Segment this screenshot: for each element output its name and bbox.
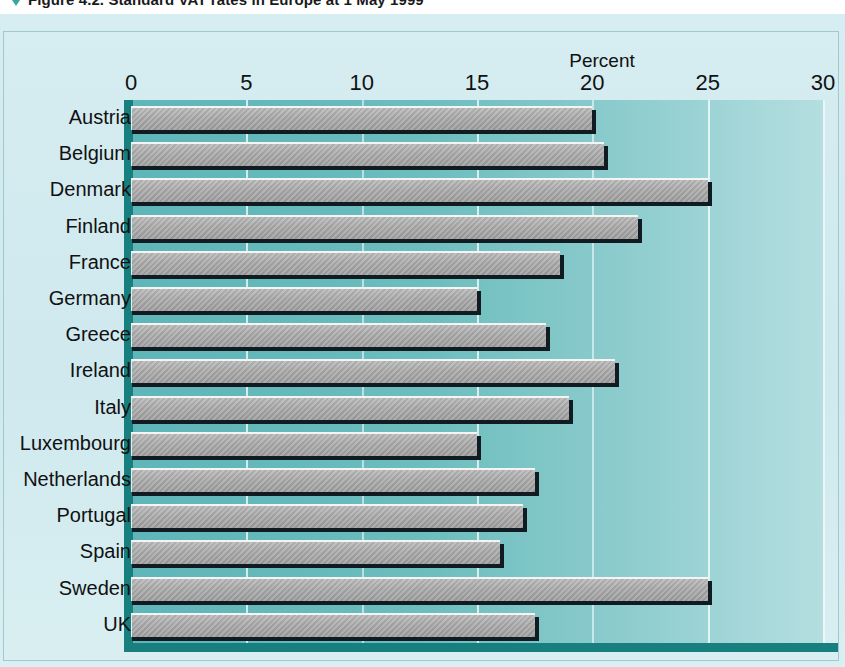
- bar-row: Ireland: [0, 353, 845, 389]
- bar-spain[interactable]: [131, 540, 500, 564]
- bar-greece[interactable]: [131, 323, 546, 347]
- category-label-finland: Finland: [0, 215, 131, 238]
- category-label-netherlands: Netherlands: [0, 468, 131, 491]
- category-label-italy: Italy: [0, 396, 131, 419]
- bar-row: Luxembourg: [0, 426, 845, 462]
- bar-fill: [131, 468, 535, 492]
- bar-row: UK: [0, 607, 845, 643]
- bar-fill: [131, 215, 638, 239]
- bar-row: France: [0, 245, 845, 281]
- bar-row: Netherlands: [0, 462, 845, 498]
- bar-ireland[interactable]: [131, 359, 615, 383]
- bar-fill: [131, 178, 708, 202]
- x-tick-30: 30: [793, 70, 845, 96]
- bar-fill: [131, 106, 592, 130]
- x-axis-title: Percent: [540, 50, 664, 72]
- figure-caption: Figure 4.2. Standard VAT rates in Europe…: [10, 0, 424, 8]
- bar-row: Sweden: [0, 571, 845, 607]
- bar-denmark[interactable]: [131, 178, 708, 202]
- bar-fill: [131, 540, 500, 564]
- bar-row: Belgium: [0, 136, 845, 172]
- bar-portugal[interactable]: [131, 504, 523, 528]
- category-label-austria: Austria: [0, 106, 131, 129]
- bar-belgium[interactable]: [131, 142, 604, 166]
- x-axis-line: [124, 643, 838, 652]
- bar-sweden[interactable]: [131, 577, 708, 601]
- bar-germany[interactable]: [131, 287, 477, 311]
- category-label-denmark: Denmark: [0, 178, 131, 201]
- bar-fill: [131, 142, 604, 166]
- bar-row: Spain: [0, 534, 845, 570]
- category-label-france: France: [0, 251, 131, 274]
- category-label-spain: Spain: [0, 540, 131, 563]
- bar-row: Portugal: [0, 498, 845, 534]
- category-label-ireland: Ireland: [0, 359, 131, 382]
- category-label-uk: UK: [0, 613, 131, 636]
- bar-italy[interactable]: [131, 396, 569, 420]
- bar-netherlands[interactable]: [131, 468, 535, 492]
- bar-fill: [131, 504, 523, 528]
- figure-caption-text: Figure 4.2. Standard VAT rates in Europe…: [28, 0, 424, 8]
- bar-fill: [131, 613, 535, 637]
- x-tick-15: 15: [447, 70, 507, 96]
- bar-fill: [131, 577, 708, 601]
- category-label-greece: Greece: [0, 323, 131, 346]
- bar-austria[interactable]: [131, 106, 592, 130]
- bar-row: Austria: [0, 100, 845, 136]
- bar-fill: [131, 396, 569, 420]
- x-tick-5: 5: [216, 70, 276, 96]
- bar-fill: [131, 359, 615, 383]
- bar-fill: [131, 432, 477, 456]
- category-label-luxembourg: Luxembourg: [0, 432, 131, 455]
- chart-panel: Percent 051015202530 AustriaBelgiumDenma…: [0, 14, 845, 667]
- x-tick-10: 10: [332, 70, 392, 96]
- bar-finland[interactable]: [131, 215, 638, 239]
- bar-fill: [131, 251, 560, 275]
- x-tick-0: 0: [101, 70, 161, 96]
- bar-fill: [131, 323, 546, 347]
- bar-row: Denmark: [0, 172, 845, 208]
- bar-row: Greece: [0, 317, 845, 353]
- bar-uk[interactable]: [131, 613, 535, 637]
- x-tick-20: 20: [562, 70, 622, 96]
- bar-fill: [131, 287, 477, 311]
- bar-france[interactable]: [131, 251, 560, 275]
- bar-row: Germany: [0, 281, 845, 317]
- category-label-belgium: Belgium: [0, 142, 131, 165]
- bar-luxembourg[interactable]: [131, 432, 477, 456]
- figure-caption-strip: Figure 4.2. Standard VAT rates in Europe…: [0, 0, 845, 14]
- category-label-portugal: Portugal: [0, 504, 131, 527]
- triangle-down-icon: [10, 0, 22, 6]
- category-label-sweden: Sweden: [0, 577, 131, 600]
- x-tick-25: 25: [678, 70, 738, 96]
- category-label-germany: Germany: [0, 287, 131, 310]
- bar-row: Italy: [0, 390, 845, 426]
- bar-row: Finland: [0, 209, 845, 245]
